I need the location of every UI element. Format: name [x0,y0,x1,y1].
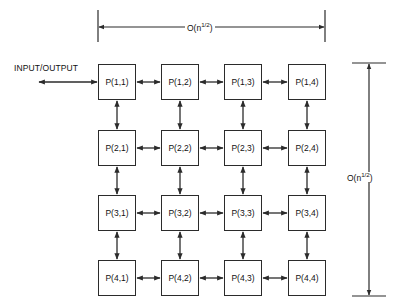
processor-node[interactable]: P(4,4) [288,260,326,296]
input-output-label: INPUT/OUTPUT [14,64,78,73]
height-dimension-prefix: O(n [347,173,361,183]
processor-node[interactable]: P(2,2) [161,130,199,166]
width-dimension-prefix: O(n [187,23,201,33]
node-label: P(2,3) [231,144,254,153]
processor-node[interactable]: P(3,1) [98,195,136,231]
node-label: P(4,2) [168,274,191,283]
processor-node[interactable]: P(1,3) [224,64,262,100]
mesh-diagram: P(1,1) P(1,2) P(1,3) P(1,4) P(2,1) P(2,2… [0,0,394,308]
node-label: P(3,2) [168,209,191,218]
processor-node[interactable]: P(1,1) [98,64,136,100]
node-label: P(3,4) [295,209,318,218]
horizontal-links [137,82,287,278]
processor-node[interactable]: P(3,4) [288,195,326,231]
processor-node[interactable]: P(2,3) [224,130,262,166]
width-dimension-label: O(n1/2) [185,22,215,32]
vertical-links [117,101,307,259]
processor-node[interactable]: P(4,3) [224,260,262,296]
node-label: P(3,1) [105,209,128,218]
node-label: P(2,1) [105,144,128,153]
width-dimension-exponent: 1/2 [201,21,210,28]
node-label: P(2,4) [295,144,318,153]
width-dimension-suffix: ) [210,23,213,33]
node-label: P(3,3) [231,209,254,218]
processor-node[interactable]: P(1,2) [161,64,199,100]
processor-node[interactable]: P(2,1) [98,130,136,166]
height-dimension-suffix: ) [370,173,373,183]
height-dimension-exponent: 1/2 [361,171,370,178]
processor-node[interactable]: P(4,2) [161,260,199,296]
processor-node[interactable]: P(2,4) [288,130,326,166]
processor-node[interactable]: P(4,1) [98,260,136,296]
height-dimension-label: O(n1/2) [345,172,375,182]
node-label: P(1,3) [231,78,254,87]
node-label: P(4,1) [105,274,128,283]
processor-node[interactable]: P(1,4) [288,64,326,100]
node-label: P(1,2) [168,78,191,87]
processor-node[interactable]: P(3,2) [161,195,199,231]
node-label: P(4,4) [295,274,318,283]
processor-node[interactable]: P(3,3) [224,195,262,231]
node-label: P(2,2) [168,144,191,153]
node-label: P(4,3) [231,274,254,283]
node-label: P(1,1) [105,78,128,87]
node-label: P(1,4) [295,78,318,87]
